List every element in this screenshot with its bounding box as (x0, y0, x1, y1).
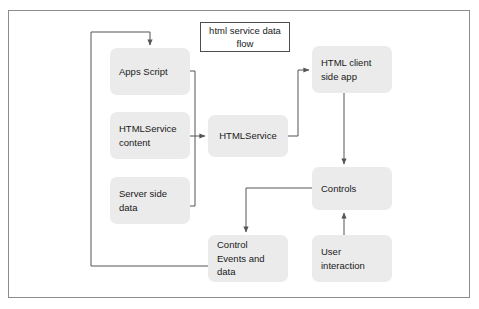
node-user-interaction-label: User interaction (321, 245, 387, 273)
node-control-events-and-data-label: Control Events and data (217, 238, 283, 279)
diagram-canvas: html service data flow Apps Script HTMLS… (0, 0, 479, 309)
node-htmlservice-content-label: HTMLService content (119, 122, 185, 150)
node-control-events-and-data[interactable]: Control Events and data (208, 235, 288, 282)
node-server-side-data[interactable]: Server side data (110, 177, 190, 224)
edge-controls-to-control-events (246, 188, 312, 232)
node-apps-script-label: Apps Script (119, 65, 185, 79)
diagram-title-box: html service data flow (200, 22, 290, 52)
node-htmlservice-content[interactable]: HTMLService content (110, 112, 190, 159)
node-html-client-side-app-label: HTML client side app (321, 56, 387, 84)
node-server-side-data-label: Server side data (119, 187, 185, 215)
node-htmlservice[interactable]: HTMLService (208, 115, 288, 157)
node-controls-label: Controls (321, 182, 387, 196)
edge-server-side-data-to-htmlservice (190, 136, 195, 206)
node-htmlservice-label: HTMLService (213, 129, 283, 143)
node-controls[interactable]: Controls (312, 167, 392, 210)
node-apps-script[interactable]: Apps Script (110, 48, 190, 95)
edge-htmlservice-to-html-client (288, 70, 309, 136)
node-html-client-side-app[interactable]: HTML client side app (312, 46, 392, 93)
node-user-interaction[interactable]: User interaction (312, 235, 392, 282)
edge-apps-script-to-htmlservice (190, 71, 195, 136)
diagram-title-label: html service data flow (201, 24, 289, 51)
